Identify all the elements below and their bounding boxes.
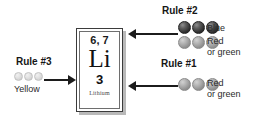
- sphere-yellow-2: [24, 72, 33, 81]
- rule-3-title: Rule #3: [16, 56, 52, 67]
- rule-3-arrow-head-icon: [68, 75, 76, 85]
- sphere-blue-2: [192, 21, 205, 34]
- rule-1-redgreen-label-line2: or green: [207, 89, 241, 100]
- rule-1-arrow-line: [136, 85, 178, 87]
- rule-2-blue-label: Blue: [207, 23, 225, 34]
- rule-2-redgreen-label: Red or green: [207, 36, 241, 58]
- rule-2-redgreen-label-line2: or green: [207, 47, 241, 58]
- sphere-redgreen-r1-1: [178, 78, 191, 91]
- diagram-canvas: 6, 7 Li 3 Lithium Rule #3 Yellow Rule #2…: [0, 0, 263, 119]
- rule-3-swatch-row: [14, 72, 44, 81]
- rule-3-swatch-label: Yellow: [14, 84, 40, 95]
- element-name: Lithium: [89, 89, 110, 97]
- sphere-blue-1: [178, 21, 191, 34]
- element-symbol: Li: [88, 46, 110, 72]
- rule-1-redgreen-label: Red or green: [207, 78, 241, 100]
- sphere-yellow-3: [34, 72, 43, 81]
- rule-1-title: Rule #1: [161, 58, 197, 69]
- rule-2-title: Rule #2: [162, 5, 198, 16]
- sphere-redgreen-r2-2: [192, 36, 205, 49]
- element-tile-inner-border: 6, 7 Li 3 Lithium: [79, 31, 120, 109]
- rule-3-arrow-line: [44, 79, 71, 81]
- rule-1-redgreen-label-line1: Red: [207, 78, 241, 89]
- element-tile: 6, 7 Li 3 Lithium: [76, 28, 123, 112]
- atomic-number: 3: [96, 73, 103, 87]
- rule-1-arrow-head-icon: [128, 81, 136, 91]
- sphere-yellow-1: [14, 72, 23, 81]
- rule-2-redgreen-label-line1: Red: [207, 36, 241, 47]
- rule-2-arrow-line: [136, 33, 178, 35]
- rule-2-arrow-head-icon: [128, 29, 136, 39]
- sphere-redgreen-r2-1: [178, 36, 191, 49]
- sphere-redgreen-r1-2: [192, 78, 205, 91]
